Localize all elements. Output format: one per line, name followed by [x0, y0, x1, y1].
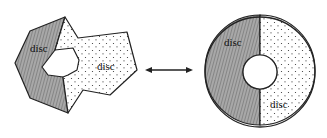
- left-dotted-label: disc: [97, 60, 115, 72]
- left-dotted-region: [55, 17, 137, 113]
- right-shape: disc disc: [205, 15, 315, 127]
- annulus-hole: [243, 55, 277, 89]
- left-hatched-label: disc: [30, 42, 48, 54]
- double-arrow-icon: [145, 67, 193, 73]
- right-hatched-label: disc: [224, 36, 242, 48]
- diagram: disc disc disc disc: [0, 0, 327, 138]
- left-shape: disc disc: [15, 17, 137, 113]
- right-dotted-label: disc: [270, 98, 288, 110]
